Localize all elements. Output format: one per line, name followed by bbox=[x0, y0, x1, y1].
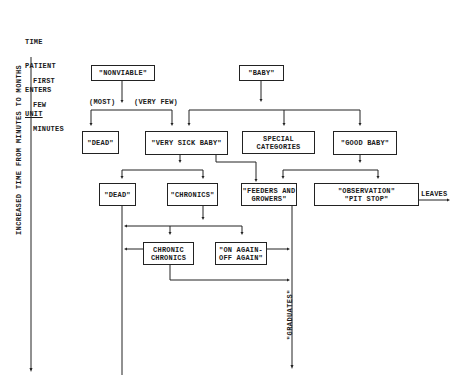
edge-label-very-few: (VERY FEW) bbox=[134, 98, 178, 106]
node-on-again-off-again: "ON AGAIN- OFF AGAIN" bbox=[215, 242, 267, 265]
node-feeders-and-growers: "FEEDERS AND GROWERS" bbox=[241, 183, 297, 206]
node-dead: "DEAD" bbox=[82, 131, 119, 154]
node-dead-2: "DEAD" bbox=[99, 183, 136, 206]
edge-label-graduates: "GRADUATES" bbox=[286, 289, 294, 340]
time-axis-arrow bbox=[30, 368, 33, 372]
node-very-sick-baby: "VERY SICK BABY" bbox=[145, 131, 228, 155]
node-chronic-chronics: CHRONIC CHRONICS bbox=[143, 242, 194, 265]
node-nonviable: "NONVIABLE" bbox=[91, 65, 155, 81]
edge-label-most: (MOST) bbox=[89, 98, 115, 106]
node-observation-pit-stop: "OBSERVATION" "PIT STOP" bbox=[314, 183, 419, 206]
node-chronics: "CHRONICS" bbox=[167, 183, 218, 206]
edge-label-leaves: LEAVES bbox=[421, 190, 447, 198]
node-good-baby: "GOOD BABY" bbox=[333, 131, 397, 155]
node-special-categories: SPECIAL CATEGORIES bbox=[242, 131, 315, 154]
node-baby: "BABY" bbox=[239, 65, 284, 81]
